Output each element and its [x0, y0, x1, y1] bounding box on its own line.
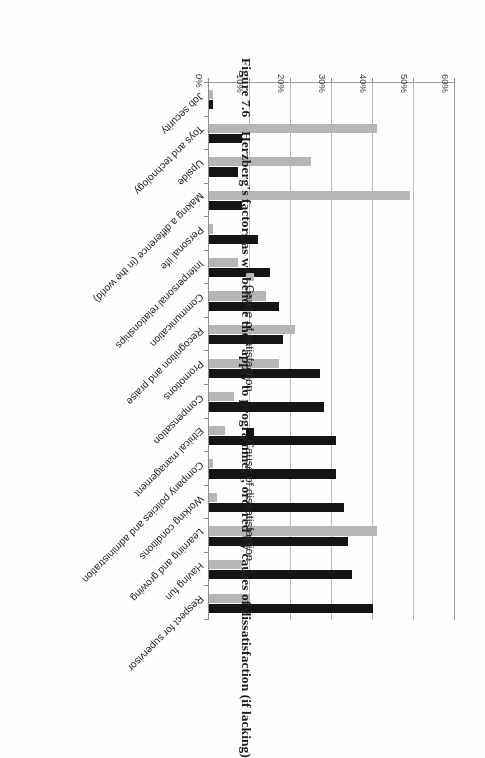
bar-dissatisfaction [209, 436, 336, 445]
value-axis-tick-label: 40% [358, 74, 369, 93]
figure-number: Figure 7.6 [238, 58, 254, 117]
value-axis-tick-label: 0% [194, 74, 205, 88]
bar-satisfaction [209, 392, 234, 401]
bar-satisfaction [209, 426, 225, 435]
bar-satisfaction [209, 90, 213, 99]
value-axis-tick-label: 60% [440, 74, 451, 93]
category-label: Respect for supervisor [126, 594, 206, 674]
bar-dissatisfaction [209, 402, 324, 411]
bar-dissatisfaction [209, 100, 213, 109]
figure-caption-text: Herzberg's factors as we believe they ap… [238, 131, 254, 758]
bar-satisfaction [209, 224, 213, 233]
value-axis-tick-label: 30% [317, 74, 328, 93]
bar-satisfaction [209, 459, 213, 468]
bar-dissatisfaction [209, 503, 344, 512]
value-axis-tick-label: 20% [276, 74, 287, 93]
category-label: Upside [176, 158, 206, 188]
figure-caption: Figure 7.6 Herzberg's factors as we beli… [232, 58, 254, 698]
bar-dissatisfaction [209, 469, 336, 478]
bar-dissatisfaction [209, 570, 353, 579]
value-axis-tick-label: 50% [399, 74, 410, 93]
bar-dissatisfaction [209, 369, 320, 378]
bar-satisfaction [209, 157, 312, 166]
bar-satisfaction [209, 493, 217, 502]
bar-dissatisfaction [209, 537, 348, 546]
category-label: Company policies and administration [80, 460, 206, 586]
